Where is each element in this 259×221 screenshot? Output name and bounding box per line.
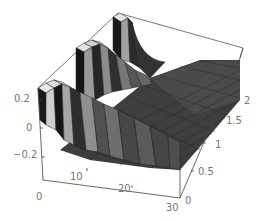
x-tick-label: 10 <box>70 171 83 182</box>
y-tick-label: 2 <box>244 95 250 106</box>
z-tick-label: 0 <box>26 122 32 133</box>
x-tick-label: 20 <box>118 183 131 194</box>
x-tick-label: 0 <box>36 191 42 202</box>
y-tick-label: 1 <box>215 139 221 150</box>
z-tick-label: 0.2 <box>14 93 30 104</box>
y-tick-label: 1.5 <box>226 115 242 126</box>
y-tick-label: 0.5 <box>198 166 214 177</box>
y-tick-label: 0 <box>185 195 191 206</box>
z-tick-label: −0.2 <box>13 149 37 160</box>
x-tick-label: 30 <box>166 202 179 213</box>
surface-plot-3d: 0.2 0 −0.2 0 10 20 30 0 0.5 1 1.5 2 <box>0 0 259 221</box>
